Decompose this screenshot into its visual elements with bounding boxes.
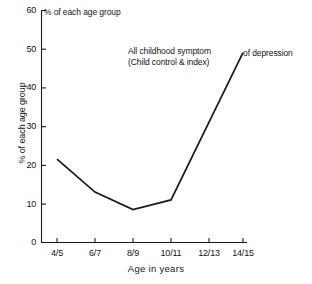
series-annotation-line1: All childhood symptom [128, 46, 211, 57]
y-tick-label-0: 0 [14, 238, 36, 247]
series-annotation-tail: of depression [243, 48, 293, 59]
x-axis-title: Age in years [0, 263, 312, 274]
x-tick-label-14-15: 14/15 [223, 249, 263, 258]
x-axis-ticks [57, 238, 243, 243]
x-tick-label-8-9: 8/9 [113, 249, 153, 258]
top-axis-note: % of each age group [44, 7, 121, 17]
x-tick-label-10-11: 10/11 [151, 249, 191, 258]
data-series-line [57, 53, 243, 210]
y-axis-ticks [42, 11, 47, 243]
x-tick-label-4-5: 4/5 [37, 249, 77, 258]
series-annotation: All childhood symptom (Child control & i… [128, 46, 211, 68]
series-annotation-line2: (Child control & index) [128, 57, 211, 68]
y-tick-label-50: 50 [14, 45, 36, 54]
y-tick-label-60: 60 [14, 6, 36, 15]
y-tick-label-10: 10 [14, 200, 36, 209]
y-axis-title: % of each age group [17, 63, 27, 183]
depression-age-line-chart: 60 50 40 30 20 10 0 4/5 6/7 8/9 10/11 12… [0, 0, 312, 284]
x-tick-label-6-7: 6/7 [75, 249, 115, 258]
plot-area [0, 0, 312, 284]
